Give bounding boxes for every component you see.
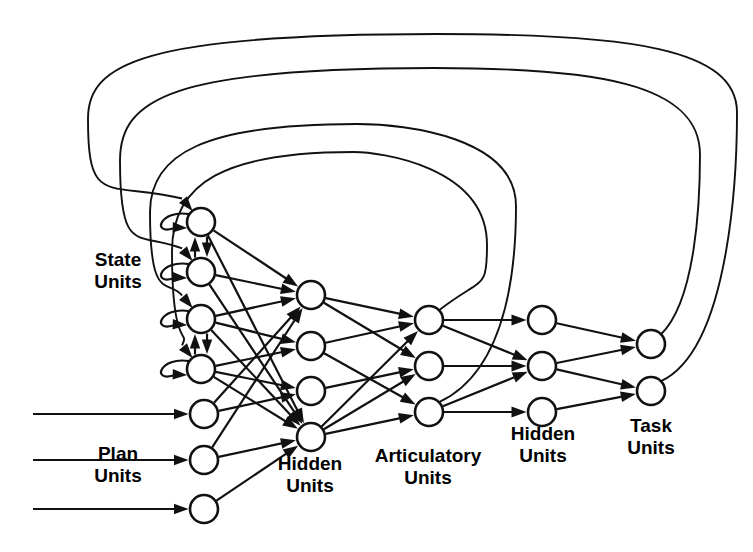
arrowhead-h1-a1 bbox=[398, 308, 414, 319]
label-hidden1: HiddenUnits bbox=[278, 453, 342, 496]
unit-hidden-units-2-3[interactable] bbox=[528, 398, 556, 426]
arrowhead-input-p1 bbox=[174, 409, 189, 419]
arrowhead-a3-g2 bbox=[512, 372, 528, 383]
connection-h4-a1 bbox=[322, 340, 409, 427]
arrowhead-feedback-a1-to-s4 bbox=[179, 343, 193, 358]
arrowhead-g3-t2 bbox=[620, 391, 636, 402]
label-task: TaskUnits bbox=[627, 415, 675, 458]
arrowhead-input-p3 bbox=[174, 504, 189, 514]
unit-articulatory-units-2[interactable] bbox=[415, 352, 443, 380]
arrowhead-s1-s2 bbox=[202, 243, 212, 258]
label-hidden1-line2: Units bbox=[286, 475, 334, 496]
connection-g3-t2 bbox=[557, 396, 624, 409]
unit-state-units-4[interactable] bbox=[187, 355, 215, 383]
arrowhead-a1-g2 bbox=[512, 349, 528, 360]
arrowhead-a3-g3 bbox=[512, 407, 527, 418]
label-plan-line2: Units bbox=[94, 465, 142, 486]
arrowhead-g1-t1 bbox=[620, 332, 636, 343]
arrowhead-s1-h1 bbox=[283, 274, 298, 287]
unit-state-units-3[interactable] bbox=[187, 305, 215, 333]
unit-articulatory-units-3[interactable] bbox=[415, 398, 443, 426]
unit-hidden-units-1-4[interactable] bbox=[297, 423, 325, 451]
unit-state-units-2[interactable] bbox=[187, 258, 215, 286]
unit-articulatory-units-1[interactable] bbox=[415, 306, 443, 334]
label-state-line2: Units bbox=[94, 271, 142, 292]
connection-g2-t1 bbox=[557, 350, 624, 363]
arrowhead-selfloop-s4 bbox=[173, 369, 188, 379]
connection-g2-t2 bbox=[557, 369, 624, 384]
connection-s1-h1 bbox=[213, 230, 287, 279]
arrowhead-selfloop-s2 bbox=[173, 272, 188, 282]
label-plan: PlanUnits bbox=[94, 443, 142, 486]
connection-a1-g2 bbox=[443, 326, 516, 356]
arrowhead-s4-h2 bbox=[280, 347, 296, 358]
label-hidden2-line1: Hidden bbox=[511, 423, 575, 444]
arrowhead-g2-t1 bbox=[620, 345, 636, 356]
unit-task-units-1[interactable] bbox=[637, 330, 665, 358]
arrowhead-input-p2 bbox=[174, 455, 189, 465]
unit-hidden-units-1-1[interactable] bbox=[297, 281, 325, 309]
unit-plan-units-1[interactable] bbox=[190, 400, 218, 428]
label-hidden2: HiddenUnits bbox=[511, 423, 575, 466]
connection-h2-a3 bbox=[324, 353, 404, 398]
label-state: StateUnits bbox=[94, 249, 142, 292]
connection-h4-a2 bbox=[324, 380, 405, 429]
arrowhead-g2-t2 bbox=[620, 379, 636, 390]
unit-state-units-1[interactable] bbox=[187, 208, 215, 236]
arrowhead-s2-s1 bbox=[190, 237, 200, 252]
arrowhead-h2-a1 bbox=[398, 321, 414, 332]
unit-plan-units-2[interactable] bbox=[190, 446, 218, 474]
label-hidden2-line2: Units bbox=[519, 445, 567, 466]
label-articulatory: ArticulatoryUnits bbox=[375, 445, 482, 488]
connection-h2-a1 bbox=[326, 326, 402, 343]
unit-hidden-units-1-2[interactable] bbox=[297, 332, 325, 360]
arrowhead-h2-a3 bbox=[400, 392, 416, 404]
arrowhead-s4-h3 bbox=[280, 380, 296, 391]
connection-a3-g2 bbox=[443, 377, 516, 407]
label-task-line2: Units bbox=[627, 437, 675, 458]
connection-s2-h1 bbox=[216, 275, 284, 289]
lateral-connection-group bbox=[190, 237, 212, 355]
unit-plan-units-3[interactable] bbox=[190, 495, 218, 523]
feedback-arc-t2-to-s1 bbox=[88, 34, 737, 381]
label-state-line1: State bbox=[95, 249, 141, 270]
arrowhead-selfloop-s1 bbox=[173, 222, 188, 232]
arrowhead-a2-g2 bbox=[512, 361, 527, 372]
arrowhead-s3-s4 bbox=[202, 340, 212, 355]
label-task-line1: Task bbox=[630, 415, 672, 436]
unit-hidden-units-2-2[interactable] bbox=[528, 352, 556, 380]
unit-task-units-2[interactable] bbox=[637, 377, 665, 405]
label-articulatory-line2: Units bbox=[404, 467, 452, 488]
feedback-arc-t1-to-s2 bbox=[120, 68, 700, 334]
arrowhead-s3-h1 bbox=[280, 296, 296, 307]
connection-p2-h4 bbox=[219, 443, 284, 457]
unit-hidden-units-2-1[interactable] bbox=[528, 306, 556, 334]
arrowhead-s4-s3 bbox=[190, 334, 200, 349]
unit-hidden-units-1-3[interactable] bbox=[297, 377, 325, 405]
arrowhead-a1-g1 bbox=[512, 315, 527, 326]
label-hidden1-line1: Hidden bbox=[278, 453, 342, 474]
label-articulatory-line1: Articulatory bbox=[375, 445, 482, 466]
label-plan-line1: Plan bbox=[98, 443, 138, 464]
connection-g1-t1 bbox=[557, 323, 624, 338]
arrowhead-h4-a3 bbox=[398, 413, 414, 424]
network-svg: StateUnitsPlanUnitsHiddenUnitsArticulato… bbox=[0, 0, 753, 552]
network-diagram: StateUnitsPlanUnitsHiddenUnitsArticulato… bbox=[0, 0, 753, 552]
